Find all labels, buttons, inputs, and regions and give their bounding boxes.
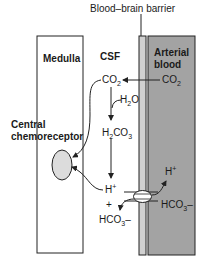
hco3-blood-label: HCO3– [161,199,193,210]
blood-brain-barrier-label: Blood–brain barrier [90,3,175,14]
h-ion-blood-label: H+ [165,166,176,177]
hco3-csf-label: HCO3– [99,214,131,225]
plus-sign: + [106,199,112,210]
arterial-label-line2: blood [154,59,181,70]
csf-label: CSF [100,51,120,62]
receptor-label-line1: Central [11,119,45,130]
h2o-label: H2O [120,94,139,105]
co2-csf-label: CO2 [102,74,121,85]
medulla-region [37,36,83,253]
h2co3-label: H2CO3 [102,127,132,138]
arterial-label-line1: Arterial [154,47,189,58]
medulla-label: Medulla [43,53,80,64]
h-ion-csf-label: H+ [105,184,116,195]
chemoreceptor-ellipse [52,150,72,180]
receptor-label-line2: chemoreceptor [11,131,83,142]
blood-brain-barrier-strip [139,36,146,255]
co2-blood-label: CO2 [162,74,181,85]
